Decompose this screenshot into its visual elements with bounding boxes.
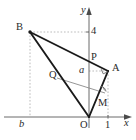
label-tick-one: 1 [105,120,110,131]
segment-AO [89,71,108,117]
label-point-A: A [112,63,120,74]
point-dots [28,30,31,33]
point-B-dot [28,30,31,33]
label-origin: O [80,120,88,131]
label-tick-four: 4 [91,26,96,37]
y-axis-arrow [86,7,91,15]
label-tick-b: b [19,119,24,130]
label-point-B: B [16,22,23,33]
label-point-P: P [91,52,97,63]
label-y-axis: y [81,5,86,16]
geometry-figure: B A P Q M a 4 1 O b x y [0,0,136,140]
label-point-Q: Q [49,70,57,81]
guide-lines [30,32,108,117]
label-value-a: a [79,65,84,76]
triangle-BAO [30,32,108,117]
label-point-M: M [98,98,107,109]
label-x-axis: x [124,118,129,129]
